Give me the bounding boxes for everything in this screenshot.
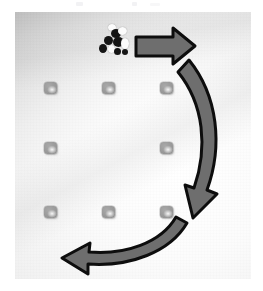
crop-smudge-icon xyxy=(132,2,137,6)
grid-marker xyxy=(102,82,115,94)
toy-figure xyxy=(95,24,131,58)
grid-marker xyxy=(160,82,173,94)
figure-spot xyxy=(99,44,107,53)
figure-spot xyxy=(104,36,113,45)
grid-marker xyxy=(44,142,57,154)
crop-smudge-icon xyxy=(76,2,83,6)
top-crop-artifact xyxy=(0,0,263,12)
figure-spot xyxy=(114,48,121,55)
figure-highlight xyxy=(118,27,127,35)
grid-marker xyxy=(160,206,173,218)
grid-marker xyxy=(44,82,57,94)
grid-marker xyxy=(44,206,57,218)
figure-highlight xyxy=(121,38,129,49)
grid-marker xyxy=(102,206,115,218)
figure-spot xyxy=(122,49,128,55)
crop-smudge-icon xyxy=(150,3,160,6)
figure-root xyxy=(0,0,263,291)
grid-marker xyxy=(160,142,173,154)
photograph xyxy=(15,12,251,279)
